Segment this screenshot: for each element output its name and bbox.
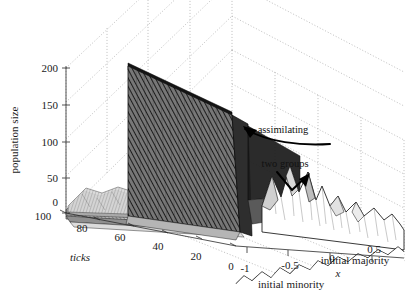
- y-tick-80: 80: [77, 222, 89, 234]
- z-tick-50: 50: [47, 172, 59, 184]
- y-tick-20: 20: [191, 250, 203, 262]
- y-tick-60: 60: [115, 231, 127, 243]
- z-tick-150: 150: [42, 99, 59, 111]
- z-tick-0: 0: [53, 196, 59, 208]
- y-tick-40: 40: [153, 240, 165, 252]
- surface-plot-svg: 200 150 100 50 0 population size 100 80 …: [0, 0, 410, 305]
- y-axis-title: ticks: [70, 251, 90, 263]
- x-axis-label-minority: initial minority: [258, 278, 325, 290]
- x-tick-neg1: -1: [240, 262, 249, 274]
- z-tick-200: 200: [42, 62, 59, 74]
- z-tick-100: 100: [42, 136, 59, 148]
- annotation-assimilating-label: assimilating: [258, 124, 309, 135]
- x-axis-label-majority: intitial majority: [321, 254, 390, 266]
- y-tick-0: 0: [228, 260, 234, 272]
- z-axis-title: population size: [8, 106, 20, 173]
- annotation-two-groups-label: two groups: [262, 158, 309, 169]
- x-tick-neg05: -0.5: [281, 259, 299, 271]
- y-tick-100: 100: [35, 210, 52, 222]
- figure-container: 200 150 100 50 0 population size 100 80 …: [0, 0, 410, 305]
- x-axis-title: x: [335, 267, 341, 279]
